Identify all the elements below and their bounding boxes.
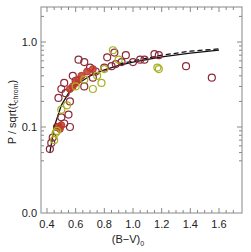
data-point	[208, 74, 215, 81]
data-point	[98, 79, 105, 86]
axis-ticks	[41, 7, 242, 213]
data-point	[55, 94, 62, 101]
data-point	[122, 52, 129, 59]
x-axis-title: (B−V)0	[112, 233, 144, 247]
data-point	[108, 63, 115, 70]
data-point	[183, 63, 190, 70]
data-point	[104, 54, 111, 61]
data-point	[155, 66, 162, 73]
scatter-chart: 0.40.60.81.01.21.41.6 0.00.11.0 (B−V)0 P…	[0, 0, 251, 252]
data-point	[65, 111, 72, 118]
y-axis-title: P / sqrt(tchrom)	[6, 80, 19, 145]
x-tick-labels: 0.40.60.81.01.21.41.6	[39, 218, 226, 230]
data-point	[89, 66, 96, 73]
data-point	[58, 114, 65, 121]
x-tick-label: 1.2	[154, 218, 169, 230]
y-tick-label: 1.0	[22, 36, 37, 48]
y-tick-label: 0.1	[22, 121, 37, 133]
data-point	[61, 79, 68, 86]
x-tick-label: 0.6	[68, 218, 83, 230]
x-tick-label: 1.4	[183, 218, 198, 230]
x-tick-label: 1.0	[125, 218, 140, 230]
y-tick-labels: 0.00.11.0	[22, 36, 37, 219]
fit-curves	[50, 49, 219, 153]
data-point	[81, 59, 88, 66]
x-tick-label: 1.6	[211, 218, 226, 230]
data-point	[66, 124, 73, 131]
plot-frame	[41, 7, 242, 213]
data-point	[81, 83, 88, 90]
y-tick-label: 0.0	[22, 207, 37, 219]
x-tick-label: 0.8	[97, 218, 112, 230]
data-point	[89, 85, 96, 92]
data-point	[109, 47, 116, 54]
x-tick-label: 0.4	[39, 218, 54, 230]
